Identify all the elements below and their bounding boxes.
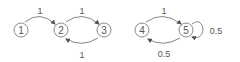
edge-4-to-5 xyxy=(146,16,181,24)
node-4: 4 xyxy=(135,23,149,37)
edge-label-5-5: 0.5 xyxy=(210,26,223,36)
edge-1-to-2 xyxy=(25,16,55,24)
edge-label-1-2: 1 xyxy=(37,6,42,16)
svg-text:2: 2 xyxy=(58,25,64,36)
svg-text:4: 4 xyxy=(139,25,145,36)
graph-diagram: 1 1 1 1 0.5 0.5 1 2 3 4 5 xyxy=(0,0,240,62)
edge-label-5-4: 0.5 xyxy=(158,49,171,59)
edge-label-4-5: 1 xyxy=(161,6,166,16)
node-5: 5 xyxy=(179,23,193,37)
edge-2-to-3 xyxy=(66,16,99,24)
svg-text:1: 1 xyxy=(18,25,24,36)
svg-text:3: 3 xyxy=(101,25,107,36)
edge-3-to-2 xyxy=(66,38,98,43)
edge-label-2-3: 1 xyxy=(79,6,84,16)
edge-5-to-4 xyxy=(148,38,180,43)
node-3: 3 xyxy=(97,23,111,37)
edge-5-self-loop xyxy=(192,22,203,38)
node-1: 1 xyxy=(14,23,28,37)
svg-text:5: 5 xyxy=(183,25,189,36)
node-2: 2 xyxy=(54,23,68,37)
edge-label-3-2: 1 xyxy=(79,50,84,60)
